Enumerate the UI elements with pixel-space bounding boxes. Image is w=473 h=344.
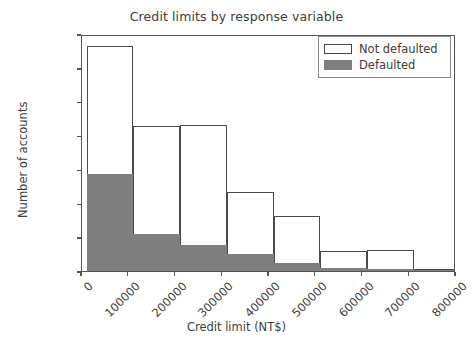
x-tick-mark — [174, 272, 175, 276]
y-axis-label: Number of accounts — [16, 102, 30, 218]
outline-rect-icon — [324, 44, 352, 54]
x-axis-label: Credit limit (NT$) — [0, 320, 473, 334]
x-tick-mark — [267, 272, 268, 276]
legend: Not defaulted Defaulted — [318, 36, 451, 78]
x-tick-mark — [80, 272, 81, 276]
bar-defaulted — [133, 234, 180, 271]
bar-defaulted — [414, 270, 454, 271]
legend-item-defaulted: Defaulted — [324, 57, 445, 72]
bar-defaulted — [87, 174, 134, 271]
bar-defaulted — [367, 269, 414, 271]
bar-defaulted — [180, 245, 227, 271]
x-tick-mark — [127, 272, 128, 276]
legend-label-not-defaulted: Not defaulted — [359, 42, 438, 56]
legend-label-defaulted: Defaulted — [359, 58, 415, 72]
x-tick-mark — [408, 272, 409, 276]
chart-title: Credit limits by response variable — [0, 9, 473, 24]
x-tick-mark — [221, 272, 222, 276]
x-tick-mark — [454, 272, 455, 276]
filled-rect-icon — [324, 60, 352, 70]
chart-figure: Credit limits by response variable Numbe… — [0, 0, 473, 344]
x-tick-mark — [314, 272, 315, 276]
bar-defaulted — [227, 254, 274, 271]
bar-defaulted — [274, 263, 321, 271]
legend-item-not-defaulted: Not defaulted — [324, 41, 445, 56]
bar-defaulted — [320, 268, 367, 271]
x-tick-mark — [361, 272, 362, 276]
